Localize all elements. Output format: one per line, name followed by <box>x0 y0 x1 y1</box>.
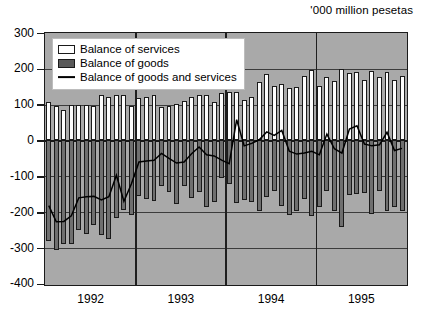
y-axis-tick <box>37 248 44 250</box>
legend-label-goods: Balance of goods <box>80 57 169 71</box>
y-axis-label: 300 <box>0 26 34 40</box>
chart-container: '000 million pesetas 3002001000-100-200-… <box>0 0 421 324</box>
x-axis-label: 1992 <box>61 292 121 306</box>
line-icon <box>58 73 75 82</box>
legend-label-services: Balance of services <box>80 43 180 57</box>
y-axis-tick <box>37 176 44 178</box>
legend-item-services: Balance of services <box>58 43 237 57</box>
y-axis-tick <box>37 69 44 71</box>
dark-square-icon <box>58 59 75 68</box>
y-axis-label: 0 <box>0 133 34 147</box>
y-axis-tick <box>37 140 44 142</box>
y-axis-label: -400 <box>0 276 34 290</box>
y-axis-tick <box>37 284 44 286</box>
y-axis-tick <box>37 212 44 214</box>
y-axis-label: 100 <box>0 97 34 111</box>
legend-label-goods-and-services: Balance of goods and services <box>80 71 237 85</box>
legend-item-goods-and-services: Balance of goods and services <box>58 71 237 85</box>
y-axis-tick <box>37 33 44 35</box>
y-axis-tick <box>37 104 44 106</box>
x-axis-label: 1994 <box>241 292 301 306</box>
y-axis-label: 200 <box>0 61 34 75</box>
y-axis-label: -200 <box>0 205 34 219</box>
legend-item-goods: Balance of goods <box>58 57 237 71</box>
white-square-icon <box>58 45 75 54</box>
x-axis-label: 1995 <box>331 292 391 306</box>
line-balance-goods-and-services <box>49 120 402 222</box>
units-label: '000 million pesetas <box>310 4 413 16</box>
y-axis-label: -300 <box>0 241 34 255</box>
y-axis-label: -100 <box>0 169 34 183</box>
chart-legend: Balance of services Balance of goods Bal… <box>52 38 245 90</box>
x-axis-label: 1993 <box>151 292 211 306</box>
